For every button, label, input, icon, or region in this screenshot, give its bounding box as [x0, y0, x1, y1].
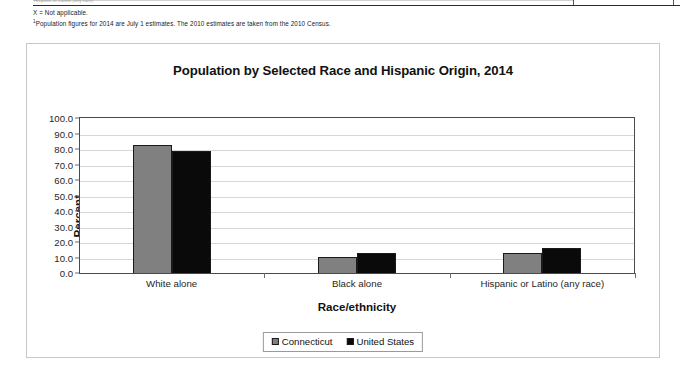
bar-connecticut[interactable]	[318, 257, 357, 273]
legend-item[interactable]: Connecticut	[272, 336, 333, 347]
table-inner-rule	[33, 0, 573, 1]
x-axis-tick-label: White alone	[79, 278, 264, 289]
y-axis-tick-mark	[75, 226, 79, 227]
plot-wrapper: Percent 0.010.020.030.040.050.060.070.08…	[79, 117, 635, 274]
footnote-population-note: 1Population figures for 2014 are July 1 …	[33, 19, 331, 27]
x-axis-title: Race/ethnicity	[79, 300, 635, 313]
x-axis-tick-label: Black alone	[264, 278, 449, 289]
chart-container: Population by Selected Race and Hispanic…	[26, 43, 660, 358]
y-axis-tick-label: 0.0	[60, 268, 73, 279]
y-axis-tick-label: 90.0	[54, 128, 73, 139]
x-axis-tick-mark	[635, 273, 636, 278]
table-truncated-row-text: Hispanic or Latino (any race)	[34, 0, 93, 3]
y-axis-tick-label: 10.0	[54, 252, 73, 263]
y-axis-tick-label: 60.0	[54, 175, 73, 186]
table-remnant: Hispanic or Latino (any race)	[0, 0, 680, 12]
bars-layer	[80, 118, 634, 273]
legend-label: Connecticut	[282, 336, 333, 347]
y-axis-tick-label: 100.0	[49, 113, 73, 124]
legend-label: United States	[357, 336, 415, 347]
y-axis-tick-mark	[75, 211, 79, 212]
bar-group	[133, 118, 211, 273]
bar-united-states[interactable]	[357, 253, 396, 273]
y-axis-tick-label: 30.0	[54, 221, 73, 232]
legend-item[interactable]: United States	[347, 336, 415, 347]
plot-area	[79, 117, 635, 274]
chart-legend: ConnecticutUnited States	[263, 332, 423, 352]
legend-swatch-icon	[347, 338, 354, 345]
footnote-population-text: Population figures for 2014 are July 1 e…	[36, 20, 331, 27]
y-axis-tick-mark	[75, 180, 79, 181]
bar-group	[503, 118, 581, 273]
y-axis-tick-mark	[75, 149, 79, 150]
y-axis-tick-mark	[75, 133, 79, 134]
y-axis-tick-label: 70.0	[54, 159, 73, 170]
x-axis-tick-label: Hispanic or Latino (any race)	[450, 278, 635, 289]
y-axis-tick-label: 20.0	[54, 237, 73, 248]
chart-title: Population by Selected Race and Hispanic…	[27, 63, 659, 78]
y-axis-tick-label: 40.0	[54, 206, 73, 217]
y-axis-tick-mark	[75, 242, 79, 243]
y-axis-tick-mark	[75, 118, 79, 119]
bar-united-states[interactable]	[542, 248, 581, 273]
y-axis-tick-label: 80.0	[54, 144, 73, 155]
y-axis-tick-mark	[75, 195, 79, 196]
footnote-not-applicable: X = Not applicable.	[33, 9, 88, 16]
table-bottom-rule	[33, 5, 680, 6]
y-axis-tick-mark	[75, 257, 79, 258]
bar-group	[318, 118, 396, 273]
bar-connecticut[interactable]	[503, 253, 542, 273]
y-axis-tick-mark	[75, 273, 79, 274]
y-axis-tick-mark	[75, 164, 79, 165]
y-axis-tick-label: 50.0	[54, 190, 73, 201]
x-axis-tick-labels: White aloneBlack aloneHispanic or Latino…	[79, 278, 635, 289]
bar-connecticut[interactable]	[133, 145, 172, 273]
bar-united-states[interactable]	[172, 151, 211, 273]
legend-swatch-icon	[272, 338, 279, 345]
